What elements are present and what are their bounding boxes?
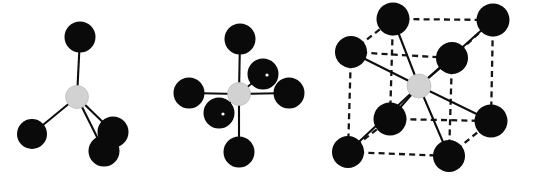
cubic-atoms xyxy=(332,3,510,173)
vertex-back-top-right xyxy=(477,4,510,37)
vertex-back-bottom-left xyxy=(374,103,407,136)
ligand-back-right xyxy=(248,59,279,90)
vertex-front-top-right xyxy=(436,42,468,74)
ligand-top xyxy=(65,22,96,53)
ligand-right xyxy=(274,78,305,109)
ligand-left xyxy=(174,78,205,109)
ligand-up xyxy=(225,24,256,55)
ligand-front-left-highlight xyxy=(221,112,224,115)
octahedral-center-atom xyxy=(228,83,251,106)
vertex-back-top-left xyxy=(377,3,410,36)
tetrahedral-center-atom xyxy=(66,86,89,109)
coordination-geometry-figure xyxy=(0,0,533,182)
cubic-center-atom xyxy=(407,74,431,98)
vertex-front-bottom-left xyxy=(332,136,364,168)
ligand-bottom-right xyxy=(89,136,120,167)
ligand-left xyxy=(17,119,47,149)
octahedral-atoms xyxy=(174,24,305,168)
ligand-front-left xyxy=(204,98,235,129)
vertex-front-top-left xyxy=(335,36,367,68)
figure-canvas xyxy=(0,0,533,182)
ligand-back-right-highlight xyxy=(265,73,268,76)
structure-cubic xyxy=(332,3,510,173)
structure-octahedral xyxy=(174,24,305,168)
vertex-front-bottom-right xyxy=(433,140,465,172)
vertex-back-bottom-right xyxy=(475,105,508,138)
structure-tetrahedral xyxy=(17,22,129,167)
tetrahedral-atoms xyxy=(17,22,129,167)
ligand-down xyxy=(224,137,255,168)
